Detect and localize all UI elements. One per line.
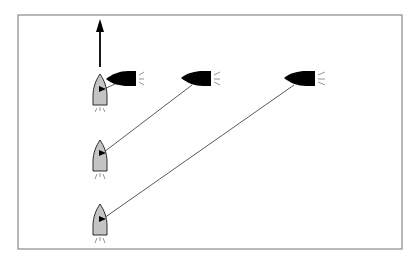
boat-bearing-diagram [0, 0, 416, 263]
diagram-frame [18, 15, 402, 249]
